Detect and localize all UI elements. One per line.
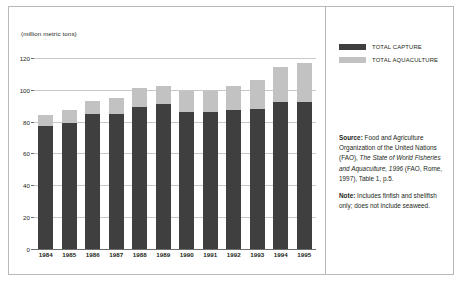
bar-segment-aquaculture: [179, 91, 194, 112]
legend-swatch-icon-aquaculture: [339, 57, 366, 63]
bar-group: [203, 91, 218, 249]
bar-group: [226, 86, 241, 249]
bar-group: [297, 63, 312, 249]
bar-segment-aquaculture: [62, 110, 77, 123]
legend-label-aquaculture: TOTAL AQUACULTURE: [372, 57, 438, 63]
chart-legend: TOTAL CAPTURE TOTAL AQUACULTURE: [339, 44, 449, 70]
bar-segment-aquaculture: [85, 101, 100, 114]
bar-group: [132, 88, 147, 249]
bar-segment-aquaculture: [38, 115, 53, 126]
bar-segment-aquaculture: [203, 91, 218, 112]
bar-segment-capture: [62, 123, 77, 249]
bar-segment-capture: [297, 102, 312, 249]
y-tick-label-20: 20: [23, 214, 30, 221]
bar-group: [85, 101, 100, 249]
y-tick-label-60: 60: [23, 150, 30, 157]
x-axis-label-1995: 1995: [289, 251, 319, 258]
bar-segment-capture: [85, 114, 100, 249]
figure-page: (million metric tons) 020406080100120 19…: [0, 0, 462, 282]
y-tick-label-40: 40: [23, 182, 30, 189]
note-note: Note: Includes finfish and shellfish onl…: [339, 191, 443, 211]
legend-swatch-icon-capture: [339, 44, 366, 50]
bar-segment-aquaculture: [156, 86, 171, 104]
figure-notes: Source: Food and Agriculture Organizatio…: [339, 133, 443, 211]
legend-label-capture: TOTAL CAPTURE: [372, 44, 422, 50]
bar-segment-capture: [38, 126, 53, 249]
y-tick-label-80: 80: [23, 118, 30, 125]
bar-group: [38, 115, 53, 249]
bar-segment-capture: [132, 107, 147, 249]
bar-group: [109, 98, 124, 249]
bar-series-container: [34, 45, 316, 249]
bar-segment-capture: [179, 112, 194, 249]
bar-group: [273, 67, 288, 249]
chart-plot-area: 020406080100120 198419851986198719881989…: [34, 45, 316, 249]
bar-segment-capture: [273, 102, 288, 249]
bar-group: [156, 86, 171, 249]
y-axis-unit-caption: (million metric tons): [21, 30, 77, 37]
source-note: Source: Food and Agriculture Organizatio…: [339, 133, 443, 184]
panel-divider: [325, 6, 326, 275]
bar-segment-capture: [250, 109, 265, 249]
legend-item-total-aquaculture: TOTAL AQUACULTURE: [339, 57, 449, 63]
bar-segment-aquaculture: [109, 98, 124, 114]
y-tick-label-120: 120: [20, 54, 30, 61]
y-tick-label-0: 0: [27, 246, 30, 253]
bar-segment-aquaculture: [226, 86, 241, 110]
bar-segment-capture: [203, 112, 218, 249]
bar-group: [250, 80, 265, 249]
bar-segment-aquaculture: [250, 80, 265, 109]
bar-segment-aquaculture: [297, 63, 312, 103]
bar-segment-aquaculture: [273, 67, 288, 102]
bar-segment-aquaculture: [132, 88, 147, 107]
bar-group: [62, 110, 77, 249]
bar-segment-capture: [156, 104, 171, 249]
bar-segment-capture: [226, 110, 241, 249]
legend-item-total-capture: TOTAL CAPTURE: [339, 44, 449, 50]
note-label: Note:: [339, 192, 355, 199]
gridline-0: [34, 249, 316, 250]
bar-group: [179, 91, 194, 249]
y-tick-mark-0: [31, 249, 34, 250]
bar-segment-capture: [109, 114, 124, 249]
source-label: Source:: [339, 134, 363, 141]
y-tick-label-100: 100: [20, 86, 30, 93]
